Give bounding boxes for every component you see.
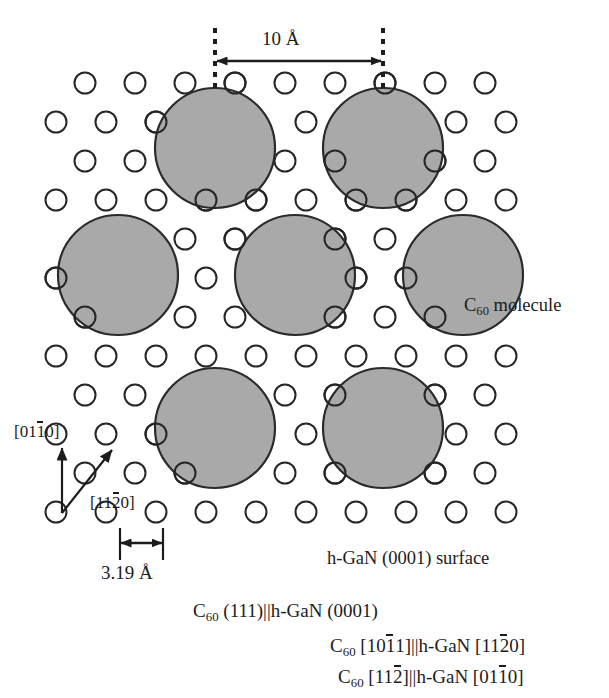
direction-label-01-10: [0110]	[14, 422, 59, 441]
epitaxy-1-left-subscript: 60	[206, 609, 219, 624]
epitaxy-1-separator: ||	[263, 600, 271, 621]
direction-label-11-20: [1120]	[90, 493, 135, 512]
epitaxy-3-right-pre: h-GaN [01	[416, 666, 498, 687]
epitaxy-3-left-pre: [11	[364, 666, 393, 687]
overbar-rule	[386, 634, 393, 635]
surface-label: h-GaN (0001) surface	[327, 548, 489, 569]
epitaxy-relation-2: C60 [1011]||h-GaN [1120]	[330, 635, 525, 659]
epitaxy-2-right-overbar: 2	[500, 635, 510, 656]
overbar-rule	[499, 665, 506, 666]
direction-01-10-overbar: 1	[37, 422, 46, 441]
direction-11-20-post: 0]	[121, 493, 135, 512]
epitaxy-1-left-symbol: C	[193, 600, 206, 621]
direction-01-10-pre: [01	[14, 422, 37, 441]
overbar-rule	[394, 665, 401, 666]
epitaxy-1-left-plane: (111)	[219, 600, 264, 621]
epitaxy-3-left-subscript: 60	[351, 675, 364, 690]
epitaxy-2-left-symbol: C	[330, 635, 343, 656]
epitaxy-3-right-over: 1	[498, 666, 508, 687]
epitaxy-2-left-post: 1]	[395, 635, 411, 656]
spacing-label-10a: 10 Å	[262, 28, 299, 49]
spacing-label-319a: 3.19 Å	[101, 562, 153, 583]
epitaxy-3-left-over: 2	[393, 666, 403, 687]
epitaxy-2-right-over: 2	[500, 635, 510, 656]
epitaxy-3-left-symbol: C	[338, 666, 351, 687]
epitaxy-relation-1: C60 (111)||h-GaN (0001)	[193, 600, 378, 624]
direction-01-10-post: 0]	[45, 422, 59, 441]
direction-01-10-over: 1	[37, 422, 46, 441]
epitaxy-3-right-post: 0]	[508, 666, 524, 687]
epitaxy-2-right-pre: h-GaN [11	[419, 635, 500, 656]
direction-11-20-pre: [11	[90, 493, 112, 512]
epitaxy-2-left-over: 1	[386, 635, 396, 656]
overbar-rule	[37, 421, 43, 422]
epitaxy-3-left-overbar: 2	[393, 666, 403, 687]
c60-label-symbol: C	[464, 295, 476, 315]
direction-11-20-overbar: 2	[112, 493, 121, 512]
epitaxy-relation-3: C60 [112]||h-GaN [0110]	[338, 666, 524, 690]
c60-molecule-label: C60 molecule	[464, 295, 561, 318]
spacing-measure-319a	[120, 528, 163, 560]
overbar-rule	[113, 492, 119, 493]
epitaxy-2-left-overbar: 1	[386, 635, 396, 656]
figure-canvas: 10 Å 3.19 Å [0110] [1120] C60 molecule h…	[0, 0, 609, 698]
annotation-layer	[0, 0, 609, 698]
c60-label-text: molecule	[489, 295, 561, 315]
c60-label-subscript: 60	[476, 304, 489, 318]
epitaxy-1-right-plane: h-GaN (0001)	[271, 600, 378, 621]
epitaxy-3-right-overbar: 1	[498, 666, 508, 687]
epitaxy-2-left-subscript: 60	[343, 644, 356, 659]
direction-11-20-over: 2	[112, 493, 121, 512]
epitaxy-2-left-pre: [10	[356, 635, 386, 656]
overbar-rule	[500, 634, 507, 635]
epitaxy-2-separator: ||	[411, 635, 419, 656]
epitaxy-2-right-post: 0]	[509, 635, 525, 656]
